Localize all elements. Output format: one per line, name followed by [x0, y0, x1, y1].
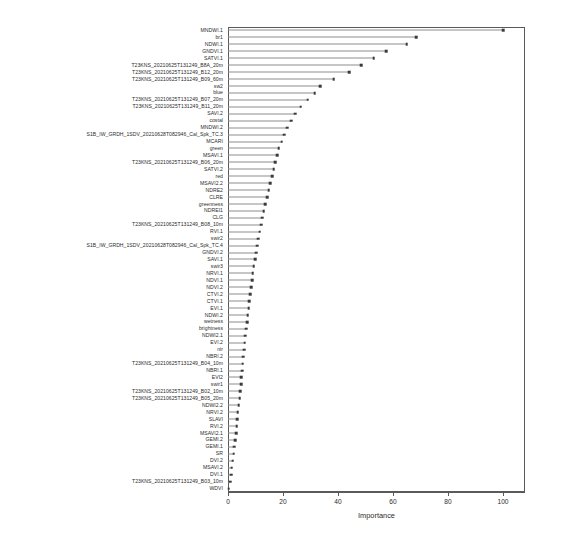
table-row: [228, 471, 525, 478]
category-label: MNDWI.1: [201, 27, 223, 34]
value-connector-line: [228, 349, 244, 350]
table-row: [228, 201, 525, 208]
table-row: [228, 430, 525, 437]
value-point-marker: [242, 362, 245, 365]
category-label: greenness: [199, 201, 223, 208]
table-row: [228, 166, 525, 173]
value-point-marker: [246, 314, 249, 317]
value-connector-line: [228, 113, 295, 114]
value-point-marker: [319, 85, 322, 88]
value-point-marker: [243, 341, 246, 344]
table-row: [228, 277, 525, 284]
table-row: [228, 221, 525, 228]
value-connector-line: [228, 294, 250, 295]
table-row: [228, 124, 525, 131]
value-connector-line: [228, 245, 257, 246]
value-connector-line: [228, 287, 251, 288]
value-connector-line: [228, 141, 282, 142]
value-point-marker: [231, 459, 234, 462]
category-label: NDVI.2: [206, 284, 223, 291]
plot-area: [228, 27, 525, 492]
value-point-marker: [260, 223, 263, 226]
table-row: [228, 367, 525, 374]
value-connector-line: [228, 197, 267, 198]
category-label: MNDWI.2: [201, 124, 223, 131]
value-connector-line: [228, 134, 284, 135]
value-connector-line: [228, 120, 291, 121]
value-connector-line: [228, 30, 503, 31]
table-row: [228, 207, 525, 214]
value-point-marker: [249, 293, 252, 296]
category-label: T23KNS_20210625T131249_B12_20m: [132, 69, 223, 76]
table-row: [228, 48, 525, 55]
value-point-marker: [262, 210, 265, 213]
category-label: SAVI.2: [207, 110, 223, 117]
x-axis-tick-label: 20: [279, 498, 286, 505]
table-row: [228, 256, 525, 263]
table-row: [228, 214, 525, 221]
x-axis-title: Importance: [228, 511, 525, 520]
value-point-marker: [300, 105, 303, 108]
value-point-marker: [278, 147, 281, 150]
category-label: sw2: [214, 83, 223, 90]
table-row: [228, 180, 525, 187]
value-connector-line: [228, 203, 265, 204]
table-row: [228, 395, 525, 402]
table-row: [228, 464, 525, 471]
category-label: red: [215, 173, 223, 180]
category-label: swir2: [211, 235, 223, 242]
value-connector-line: [228, 58, 374, 59]
value-point-marker: [264, 203, 267, 206]
value-connector-line: [228, 72, 349, 73]
value-point-marker: [240, 376, 243, 379]
category-label: wetness: [204, 318, 223, 325]
value-point-marker: [232, 453, 235, 456]
value-connector-line: [228, 356, 243, 357]
value-point-marker: [247, 307, 250, 310]
category-label: EVI.2: [210, 339, 223, 346]
value-point-marker: [235, 425, 238, 428]
category-axis-labels: MNDWI.1br1NDWI.1GNDVI.1SATVI.1T23KNS_202…: [0, 27, 226, 492]
table-row: [228, 41, 525, 48]
category-label: br1: [215, 34, 223, 41]
category-label: RVI.1: [210, 228, 223, 235]
value-point-marker: [280, 140, 283, 143]
value-connector-line: [228, 183, 270, 184]
table-row: [228, 374, 525, 381]
category-label: NDVI.1: [206, 277, 223, 284]
table-row: [228, 187, 525, 194]
table-row: [228, 346, 525, 353]
category-label: GEMI.1: [205, 443, 223, 450]
table-row: [228, 263, 525, 270]
value-point-marker: [255, 251, 258, 254]
x-axis-tick: [503, 492, 504, 496]
category-label: MSAVI2.1: [200, 430, 223, 437]
category-label: green: [210, 145, 223, 152]
value-point-marker: [237, 404, 240, 407]
value-point-marker: [306, 99, 309, 102]
value-point-marker: [250, 286, 253, 289]
value-point-marker: [235, 432, 238, 435]
table-row: [228, 298, 525, 305]
category-label: CTVI.1: [207, 298, 223, 305]
value-point-marker: [267, 189, 270, 192]
category-label: blue: [213, 89, 223, 96]
table-row: [228, 235, 525, 242]
value-point-marker: [236, 418, 239, 421]
value-connector-line: [228, 231, 260, 232]
table-row: [228, 270, 525, 277]
table-row: [228, 450, 525, 457]
value-point-marker: [294, 112, 297, 115]
category-label: T23KNS_20210625T131249_B02_10m: [132, 388, 223, 395]
category-label: NDWI.1: [205, 41, 223, 48]
category-label: CTVI.2: [207, 291, 223, 298]
value-point-marker: [385, 50, 388, 53]
value-connector-line: [228, 176, 272, 177]
table-row: [228, 416, 525, 423]
value-point-marker: [333, 78, 336, 81]
value-point-marker: [272, 168, 275, 171]
table-row: [228, 27, 525, 34]
value-point-marker: [271, 175, 274, 178]
value-connector-line: [228, 155, 277, 156]
table-row: [228, 103, 525, 110]
